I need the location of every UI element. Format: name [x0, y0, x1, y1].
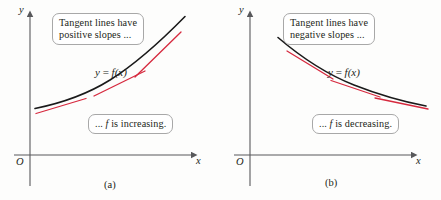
callout-a-bottom-prefix: ...	[95, 118, 106, 129]
callout-tangent-slopes-b: Tangent lines have negative slopes ...	[283, 13, 375, 45]
tangent-line-b2	[331, 81, 380, 98]
curve-label-b: y = f(x)	[328, 66, 360, 78]
x-axis-label-b: x	[416, 155, 421, 166]
caption-b: (b)	[325, 177, 337, 188]
callout-a-bottom-rest: is increasing.	[109, 118, 167, 129]
y-axis-label-b: y	[239, 4, 244, 15]
callout-tangent-slopes-a: Tangent lines have positive slopes ...	[52, 13, 144, 45]
callout-decreasing-b: ... f is decreasing.	[312, 114, 399, 134]
caption-a: (a)	[104, 179, 116, 190]
origin-label-b: O	[236, 156, 244, 167]
curve-label-a-arg: (x)	[115, 66, 127, 78]
curve-label-a: y = f(x)	[95, 66, 127, 78]
callout-b-line2: negative slopes ...	[290, 29, 368, 41]
callout-a-line1: Tangent lines have	[59, 17, 137, 29]
tangent-line-b1	[287, 51, 333, 79]
panel-b: y x O y = f(x) Tangent lines have negati…	[220, 0, 440, 200]
curve-label-b-equals: =	[333, 66, 345, 78]
callout-increasing-a: ... f is increasing.	[88, 114, 173, 134]
callout-b-line1: Tangent lines have	[290, 17, 368, 29]
figure-container: y x O y = f(x) Tangent lines have positi…	[0, 0, 441, 200]
curve-label-a-equals: =	[100, 66, 112, 78]
curve-label-b-arg: (x)	[348, 66, 360, 78]
origin-label-a: O	[16, 156, 24, 167]
x-axis-label-a: x	[196, 155, 201, 166]
callout-a-line2: positive slopes ...	[59, 29, 137, 41]
panel-a: y x O y = f(x) Tangent lines have positi…	[0, 0, 220, 200]
callout-b-bottom-rest: is decreasing.	[333, 118, 393, 129]
y-axis-label-a: y	[19, 4, 24, 15]
callout-b-bottom-prefix: ...	[319, 118, 330, 129]
tangent-line-b3	[375, 98, 428, 109]
